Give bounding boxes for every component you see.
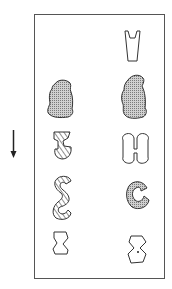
h-dumbbell-shape (123, 134, 149, 164)
stippled-blob-right (122, 75, 147, 118)
hatched-s-curve (53, 176, 71, 219)
hatched-twisted-ribbon (54, 132, 71, 159)
stippled-blob-left (48, 80, 73, 117)
notched-trapezoid-shape (125, 31, 140, 61)
down-arrow-icon (11, 130, 17, 158)
specimen-diagram (0, 0, 172, 289)
stippled-c-ring (127, 182, 149, 209)
pinched-block-dot-shape (128, 236, 146, 263)
pinched-block-shape (53, 232, 68, 254)
